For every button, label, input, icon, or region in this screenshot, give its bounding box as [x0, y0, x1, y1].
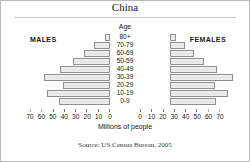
- chart-title: China: [0, 1, 250, 13]
- females-bar-cell: [170, 66, 250, 73]
- females-bar: [170, 98, 216, 105]
- males-bar: [59, 98, 110, 105]
- males-bar-cell: [30, 42, 110, 49]
- males-bar: [105, 34, 110, 41]
- axis-tick-label: 10: [95, 113, 102, 120]
- females-bar: [170, 66, 217, 73]
- males-bar: [94, 42, 110, 49]
- axis-tick: [151, 109, 152, 112]
- axis-tick-label: 0: [108, 113, 112, 120]
- age-group-label: 0-9: [110, 97, 140, 105]
- axis-tick: [86, 109, 87, 112]
- pyramid-row: 50-59: [0, 57, 250, 65]
- males-bar: [44, 74, 110, 81]
- axis-tick-label: 0: [138, 113, 142, 120]
- axis-tick: [109, 109, 110, 112]
- males-bar-cell: [30, 90, 110, 97]
- axis-tick-label: 20: [159, 113, 166, 120]
- age-group-label: 30-39: [110, 73, 140, 81]
- males-bar: [84, 50, 110, 57]
- males-bar-cell: [30, 58, 110, 65]
- pyramid-row: 70-79: [0, 41, 250, 49]
- females-bar-cell: [170, 98, 250, 105]
- pyramid-row: 0-9: [0, 97, 250, 105]
- axis-tick: [75, 109, 76, 112]
- axis-tick-label: 10: [148, 113, 155, 120]
- x-axis-labels: 706050403020100 010203040506070: [0, 113, 250, 123]
- axis-tick-label: 70: [216, 113, 223, 120]
- females-bar: [170, 74, 233, 81]
- axis-tick: [196, 109, 197, 112]
- age-group-label: 60-69: [110, 49, 140, 57]
- axis-tick: [174, 109, 175, 112]
- females-bar-cell: [170, 90, 250, 97]
- source-note: Source: US Census Bureau, 2005: [0, 141, 250, 149]
- males-bar-cell: [30, 98, 110, 105]
- age-group-label: 40-49: [110, 65, 140, 73]
- axis-tick: [163, 109, 164, 112]
- females-bar: [170, 58, 204, 65]
- age-group-label: 70-79: [110, 41, 140, 49]
- age-group-label: 20-29: [110, 81, 140, 89]
- age-group-label: 10-19: [110, 89, 140, 97]
- pyramid-row: 60-69: [0, 49, 250, 57]
- females-bar-cell: [170, 50, 250, 57]
- axis-tick: [30, 109, 31, 112]
- pyramid-row: 80+: [0, 33, 250, 41]
- pyramid-row: 10-19: [0, 89, 250, 97]
- age-axis-title: Age: [0, 23, 250, 30]
- axis-tick: [64, 109, 65, 112]
- females-bar: [170, 50, 194, 57]
- females-bar: [170, 34, 176, 41]
- axis-tick: [208, 109, 209, 112]
- pyramid-row: 30-39: [0, 73, 250, 81]
- females-bar-cell: [170, 58, 250, 65]
- axis-tick: [98, 109, 99, 112]
- axis-tick-label: 20: [84, 113, 91, 120]
- males-bar-cell: [30, 82, 110, 89]
- females-bar-cell: [170, 82, 250, 89]
- axis-tick-label: 60: [38, 113, 45, 120]
- age-group-label: 80+: [110, 33, 140, 41]
- axis-tick: [140, 109, 141, 112]
- males-bar-cell: [30, 50, 110, 57]
- axis-tick-label: 60: [205, 113, 212, 120]
- x-axis-title: Millions of people: [0, 123, 250, 130]
- females-bar-cell: [170, 34, 250, 41]
- males-bar: [73, 58, 110, 65]
- axis-tick-label: 40: [182, 113, 189, 120]
- axis-tick: [53, 109, 54, 112]
- title-divider: [14, 17, 236, 18]
- age-group-label: 50-59: [110, 57, 140, 65]
- males-bar: [47, 90, 110, 97]
- axis-tick: [185, 109, 186, 112]
- pyramid-row: 40-49: [0, 65, 250, 73]
- males-bar: [63, 82, 110, 89]
- axis-tick-label: 70: [26, 113, 33, 120]
- axis-tick: [219, 109, 220, 112]
- axis-tick-label: 30: [72, 113, 79, 120]
- axis-tick-label: 40: [61, 113, 68, 120]
- axis-tick: [41, 109, 42, 112]
- males-bar-cell: [30, 74, 110, 81]
- females-bar-cell: [170, 74, 250, 81]
- axis-tick-label: 50: [49, 113, 56, 120]
- males-bar-cell: [30, 34, 110, 41]
- females-bar: [170, 90, 228, 97]
- axis-tick-label: 50: [194, 113, 201, 120]
- pyramid-row: 20-29: [0, 81, 250, 89]
- females-bar: [170, 82, 215, 89]
- axis-tick-label: 30: [171, 113, 178, 120]
- males-bar-cell: [30, 66, 110, 73]
- males-bar: [60, 66, 110, 73]
- females-bar: [170, 42, 185, 49]
- population-pyramid-plot: 80+70-7960-6950-5940-4930-3920-2910-190-…: [0, 33, 250, 109]
- females-bar-cell: [170, 42, 250, 49]
